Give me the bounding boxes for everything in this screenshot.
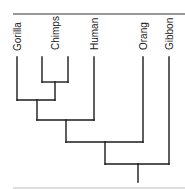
leaf-label-gibbon: Gibbon: [164, 18, 175, 50]
leaf-label-human: Human: [89, 18, 100, 50]
phylogenetic-tree: Gorilla Chimps Human Orang Gibbon: [0, 0, 185, 189]
leaf-label-gorilla: Gorilla: [12, 22, 23, 51]
tree-branches: [17, 57, 169, 182]
leaf-label-orang: Orang: [138, 22, 149, 50]
leaf-label-chimps: Chimps: [50, 16, 61, 50]
